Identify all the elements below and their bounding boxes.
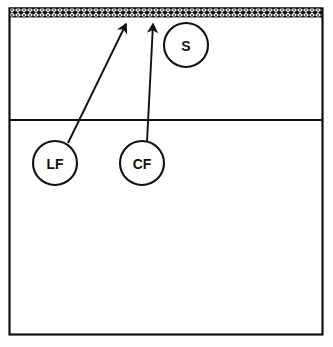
player-cf[interactable]: CF [120, 141, 164, 185]
player-s-label: S [181, 38, 190, 54]
player-lf-label: LF [46, 156, 64, 172]
court-diagram-svg: LF CF S [0, 0, 333, 347]
player-s[interactable]: S [164, 23, 208, 67]
player-cf-label: CF [133, 156, 152, 172]
player-lf[interactable]: LF [33, 141, 77, 185]
court-diagram: LF CF S [0, 0, 333, 347]
net-band [10, 8, 322, 17]
